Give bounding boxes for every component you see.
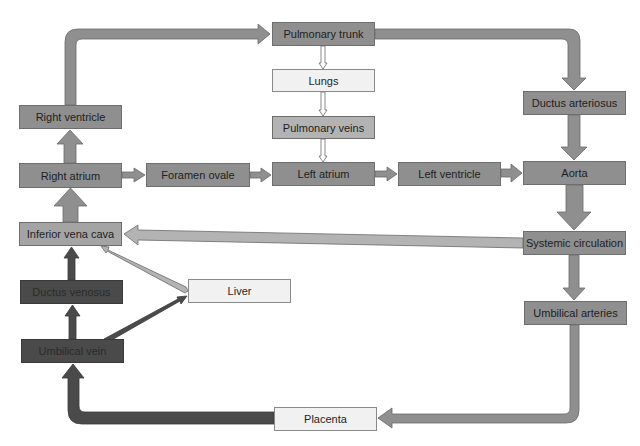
node-ductus-arteriosus: Ductus arteriosus [523, 91, 626, 115]
arrow-systemic-circulation-to-umbilical-arteries [563, 255, 585, 300]
node-systemic-circulation: Systemic circulation [523, 231, 626, 255]
arrow-ductus-arteriosus-to-aorta [561, 115, 587, 160]
node-umbilical-arteries: Umbilical arteries [524, 301, 627, 325]
node-lungs: Lungs [272, 69, 375, 92]
node-pulmonary-veins: Pulmonary veins [272, 116, 375, 139]
node-placenta: Placenta [274, 407, 377, 431]
arrow-umbilical-vein-to-ductus-venosus [65, 305, 80, 339]
arrow-right-ventricle-to-pulmonary-trunk [65, 24, 270, 105]
node-foramen-ovale: Foramen ovale [146, 163, 250, 187]
fetal-circulation-diagram: Pulmonary trunk Lungs Pulmonary veins Le… [0, 0, 640, 446]
arrow-pulmonary-trunk-to-lungs [319, 46, 327, 69]
node-left-atrium: Left atrium [272, 162, 375, 186]
node-right-ventricle: Right ventricle [19, 105, 122, 129]
node-left-ventricle: Left ventricle [398, 162, 501, 186]
arrow-ductus-venosus-to-inferior-vena-cava [64, 247, 79, 280]
arrow-aorta-to-systemic-circulation [557, 185, 591, 230]
arrow-placenta-to-umbilical-vein [62, 364, 274, 424]
node-right-atrium: Right atrium [19, 163, 122, 188]
arrow-lungs-to-pulmonary-veins [319, 92, 327, 116]
arrow-umbilical-arteries-to-placenta [378, 325, 579, 428]
arrow-inferior-vena-cava-to-right-atrium [54, 188, 87, 222]
arrow-pulmonary-trunk-to-ductus-arteriosus [375, 29, 586, 90]
arrow-pulmonary-veins-to-left-atrium [319, 139, 327, 162]
node-inferior-vena-cava: Inferior vena cava [19, 222, 122, 246]
arrow-left-ventricle-to-aorta [501, 164, 522, 182]
arrow-left-atrium-to-left-ventricle [375, 167, 397, 181]
arrow-right-atrium-to-right-ventricle [57, 130, 83, 163]
node-umbilical-vein: Umbilical vein [21, 339, 124, 363]
node-pulmonary-trunk: Pulmonary trunk [272, 22, 375, 46]
arrow-foramen-ovale-to-left-atrium [250, 168, 271, 182]
node-ductus-venosus: Ductus venosus [20, 280, 123, 304]
node-liver: Liver [188, 279, 291, 303]
arrow-systemic-circulation-to-inferior-vena-cava [124, 225, 523, 248]
arrow-right-atrium-to-foramen-ovale [122, 168, 145, 182]
node-aorta: Aorta [523, 161, 626, 185]
